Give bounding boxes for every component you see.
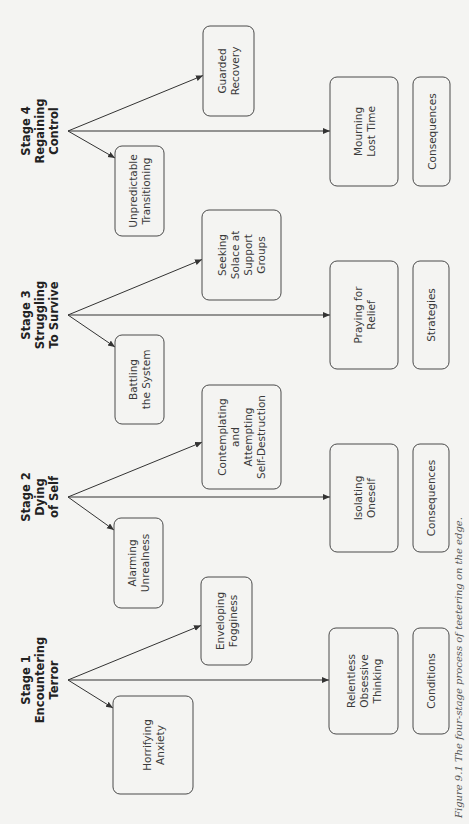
stage-2-node-right-label-line: Isolating <box>352 476 364 521</box>
stage-2-node-upper-label-line: Self-Destruction <box>255 395 267 479</box>
stage-3-node-left-label-line: Battling <box>127 359 139 400</box>
stage-4-node-upper-label-line: Recovery <box>229 47 241 96</box>
stage-2-arrow-upper <box>68 442 202 497</box>
category-text: Strategies <box>425 288 437 342</box>
stage-3-node-upper-label-line: Seeking <box>216 234 228 276</box>
stage-3-node-right-label: Praying forRelief <box>352 286 377 344</box>
stage-4-arrow-upper <box>68 76 203 132</box>
stage-4-node-left-label-line: Unpredictable <box>127 154 139 228</box>
stage-1-title-line: Stage 1 <box>19 655 33 705</box>
stage-1-node-right-label-line: Obsessive <box>358 654 370 707</box>
stage-3-node-left-label: Battlingthe System <box>127 350 152 410</box>
stage-3-title-line: To Survive <box>47 281 61 348</box>
stage-4-node-left-label-line: Transitioning <box>140 157 152 225</box>
stage-4-node-right-label-line: Lost Time <box>365 106 377 157</box>
stage-3-category-label: Strategies <box>425 288 437 342</box>
stage-2-node-right-label: IsolatingOneself <box>352 476 377 521</box>
stage-2-node-upper-label: ContemplatingandAttemptingSelf-Destructi… <box>216 395 267 479</box>
stage-4-title-line: Regaining <box>33 98 47 163</box>
stage-1-node-upper-label-line: Enveloping <box>214 592 226 650</box>
stage-2-node-left-label-line: Alarming <box>126 539 138 586</box>
stage-4-node-upper-label-line: Guarded <box>216 48 228 93</box>
figure-caption: Figure 9.1 The four-stage process of tee… <box>453 517 464 819</box>
stage-4-title: Stage 4RegainingControl <box>19 98 61 163</box>
stage-2-node-left-label-line: Unrealness <box>139 534 151 592</box>
stage-3-node-right-label-line: Praying for <box>352 286 364 344</box>
stage-1-category-label: Conditions <box>425 653 437 709</box>
stage-4-node-right-label: MourningLost Time <box>352 106 377 157</box>
stage-3-node-right-label-line: Relief <box>365 300 377 330</box>
stage-2-node-upper-label-line: and <box>229 427 241 447</box>
stage-4-category-label: Consequences <box>426 93 438 169</box>
stage-1-node-right-label: RelentlessObsessiveThinking <box>345 654 383 708</box>
stage-2-title-line: Stage 2 <box>19 472 33 522</box>
stage-1-title-line: Encountering <box>33 637 47 723</box>
stage-2-node-upper-label-line: Contemplating <box>216 398 228 476</box>
stage-3-title-line: Struggling <box>33 281 47 349</box>
stage-2-title-line: Dying <box>33 478 47 515</box>
stage-1-arrow-left <box>68 680 113 708</box>
stage-3-arrow-left <box>68 315 115 347</box>
four-stage-process-diagram: Stage 1EncounteringTerrorHorrifyingAnxie… <box>0 0 469 824</box>
stage-3-node-upper-label-line: Solace at <box>229 231 241 280</box>
category-text: Conditions <box>425 653 437 709</box>
stage-4-node-left-label: UnpredictableTransitioning <box>127 154 152 228</box>
stage-1-title: Stage 1EncounteringTerror <box>19 637 61 723</box>
stage-3-arrow-upper <box>68 260 202 316</box>
stage-2-node-right-label-line: Oneself <box>365 478 377 518</box>
stage-1-arrow-upper <box>68 625 201 680</box>
stage-1-node-upper-label: EnvelopingFogginess <box>214 592 239 650</box>
stage-4-title-line: Stage 4 <box>19 106 33 156</box>
stage-3-node-upper-label-line: Groups <box>255 236 267 273</box>
stage-1-node-left-label: HorrifyingAnxiety <box>141 719 166 771</box>
stage-2-arrow-left <box>68 497 114 530</box>
stage-1-node-right-label-line: Thinking <box>371 659 383 705</box>
stage-4-arrow-left <box>68 131 115 158</box>
stage-1-node-upper-label-line: Fogginess <box>227 595 239 647</box>
stage-4-node-upper-label: GuardedRecovery <box>216 47 241 96</box>
stage-4-node-right-label-line: Mourning <box>352 107 364 156</box>
stage-2-title: Stage 2Dyingof Self <box>19 472 61 522</box>
stage-1-title-line: Terror <box>47 660 61 699</box>
stage-3-node-upper-label: SeekingSolace atSupportGroups <box>216 231 267 280</box>
stage-3-node-left-label-line: the System <box>140 350 152 410</box>
stage-2-node-left-label: AlarmingUnrealness <box>126 534 151 592</box>
stage-1-node-left-label-line: Anxiety <box>154 725 166 765</box>
stage-1-node-right-label-line: Relentless <box>345 654 357 708</box>
category-text: Consequences <box>425 460 437 536</box>
stage-2-category-label: Consequences <box>425 460 437 536</box>
stage-3-title: Stage 3StrugglingTo Survive <box>19 281 61 349</box>
stage-3-title-line: Stage 3 <box>19 290 33 340</box>
stage-2-title-line: of Self <box>47 475 61 518</box>
stage-3-node-upper-label-line: Support <box>242 234 254 276</box>
category-text: Consequences <box>426 93 438 169</box>
stage-4-title-line: Control <box>47 107 61 155</box>
stage-1-node-left-label-line: Horrifying <box>141 719 153 771</box>
stage-2-node-upper-label-line: Attempting <box>242 408 254 467</box>
